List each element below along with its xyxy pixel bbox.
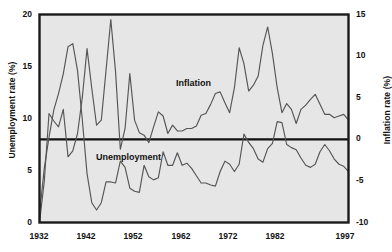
plot-background [40, 15, 349, 223]
annotation-unemployment: Unemployment [96, 152, 161, 162]
annotation-inflation: Inflation [176, 78, 211, 88]
